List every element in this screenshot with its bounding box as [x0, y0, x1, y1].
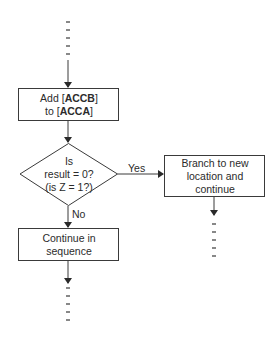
accb-register: ACCB	[65, 92, 95, 104]
add-process-label: Add [ACCB] to [ACCA]	[19, 89, 119, 121]
add-line-1: Add [ACCB]	[40, 92, 98, 105]
continue-line-1: Continue in	[42, 232, 95, 245]
right-continuation-dashes	[212, 224, 216, 256]
branch-line-3: continue	[195, 183, 235, 196]
branch-line-1: Branch to new	[181, 157, 248, 170]
add-line-1-suffix: ]	[95, 92, 98, 104]
yes-edge-label: Yes	[128, 162, 145, 174]
continue-process-label: Continue in sequence	[19, 229, 119, 261]
branch-line-2: location and	[187, 170, 244, 183]
continue-line-2: sequence	[46, 245, 92, 258]
acca-register: ACCA	[60, 105, 90, 117]
add-line-2: to [ACCA]	[45, 105, 93, 118]
branch-process-label: Branch to new location and continue	[165, 156, 265, 197]
add-line-2-suffix: ]	[90, 105, 93, 117]
add-line-2-prefix: to [	[45, 105, 60, 117]
decision-label: Is result = 0? (is Z = 1?)	[28, 148, 110, 200]
decision-line-3: (is Z = 1?)	[45, 181, 93, 194]
decision-line-2: result = 0?	[44, 168, 93, 181]
decision-line-1: Is	[65, 155, 73, 168]
top-continuation-dashes	[66, 22, 70, 54]
bottom-continuation-dashes	[66, 288, 70, 320]
add-line-1-prefix: Add [	[40, 92, 65, 104]
no-edge-label: No	[72, 208, 85, 220]
